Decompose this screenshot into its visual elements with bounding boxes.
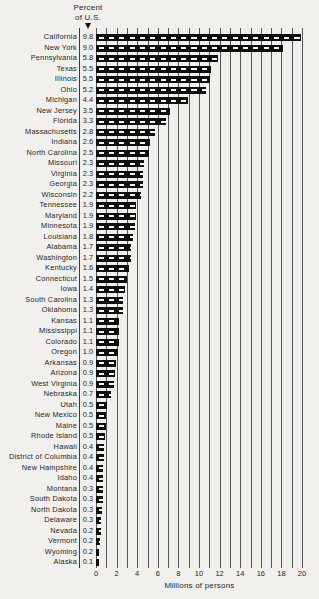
bar-row: Georgia2.3	[0, 179, 319, 190]
x-axis-tick-label: 0	[86, 569, 107, 578]
bar-row: Alabama1.7	[0, 242, 319, 253]
bar-row: Delaware0.3	[0, 515, 319, 526]
population-bar	[96, 192, 141, 199]
population-bar	[96, 402, 107, 409]
bar-gridline-dashes	[96, 520, 101, 522]
bar-gridline-dashes	[96, 299, 123, 301]
population-bar	[96, 265, 129, 272]
bar-gridline-dashes	[96, 58, 218, 60]
bar-gridline-dashes	[96, 352, 118, 354]
state-label: Idaho	[58, 473, 78, 484]
bar-gridline-dashes	[96, 320, 119, 322]
state-label: Connecticut	[36, 274, 77, 285]
bar-row: Arizona0.9	[0, 368, 319, 379]
population-bar	[96, 234, 133, 241]
percent-value: 0.9	[80, 379, 96, 390]
bar-row: California9.8	[0, 32, 319, 43]
bar-gridline-dashes	[96, 425, 106, 427]
percent-value: 0.5	[80, 431, 96, 442]
percent-value: 1.7	[80, 253, 96, 264]
population-bar	[96, 433, 105, 440]
population-bar	[96, 286, 125, 293]
state-label: Maryland	[45, 211, 77, 222]
population-bar	[96, 559, 99, 566]
x-axis-tick-label: 18	[271, 569, 292, 578]
state-label: Ohio	[61, 85, 77, 96]
x-axis-tick-label: 8	[168, 569, 189, 578]
bar-row: South Carolina1.3	[0, 295, 319, 306]
population-bar	[96, 87, 206, 94]
state-label: Virginia	[51, 169, 77, 180]
state-label: Maine	[56, 421, 77, 432]
state-label: Alaska	[54, 557, 77, 568]
bar-gridline-dashes	[96, 362, 116, 364]
bar-gridline-dashes	[96, 310, 123, 312]
percent-value: 4.4	[80, 95, 96, 106]
percent-value: 2.3	[80, 169, 96, 180]
bar-gridline-dashes	[96, 383, 114, 385]
bar-gridline-dashes	[96, 247, 131, 249]
state-label: Delaware	[44, 515, 77, 526]
bar-row: Florida3.3	[0, 116, 319, 127]
population-bar	[96, 76, 210, 83]
state-label: Louisiana	[44, 232, 77, 243]
bar-row: New York9.0	[0, 43, 319, 54]
bar-gridline-dashes	[96, 194, 141, 196]
state-label: New Jersey	[36, 106, 77, 117]
bar-row: Washington1.7	[0, 253, 319, 264]
bar-gridline-dashes	[96, 446, 104, 448]
bar-row: Maryland1.9	[0, 211, 319, 222]
bar-gridline-dashes	[96, 142, 150, 144]
population-bar	[96, 108, 170, 115]
bar-row: New Jersey3.5	[0, 106, 319, 117]
state-label: Wyoming	[45, 547, 77, 558]
population-bar	[96, 339, 119, 346]
bar-row: Missouri2.3	[0, 158, 319, 169]
x-axis-tick-label: 4	[127, 569, 148, 578]
population-bar	[96, 328, 119, 335]
percent-value: 0.4	[80, 463, 96, 474]
population-bar	[96, 297, 123, 304]
bar-gridline-dashes	[96, 257, 131, 259]
percent-value: 0.2	[80, 526, 96, 537]
percent-value: 0.3	[80, 494, 96, 505]
percent-value: 0.4	[80, 452, 96, 463]
percent-value: 2.5	[80, 148, 96, 159]
percent-value: 1.0	[80, 347, 96, 358]
percent-value: 9.0	[80, 43, 96, 54]
state-label: Missouri	[48, 158, 77, 169]
population-bar	[96, 454, 104, 461]
percent-value: 0.7	[80, 389, 96, 400]
bar-gridline-dashes	[96, 121, 166, 123]
x-axis-title: Millions of persons	[139, 581, 260, 591]
bar-row: Ohio5.2	[0, 85, 319, 96]
state-label: North Dakota	[31, 505, 77, 516]
state-label: Colorado	[45, 337, 77, 348]
bar-row: New Mexico0.5	[0, 410, 319, 421]
bar-row: Hawaii0.4	[0, 442, 319, 453]
state-label: Kentucky	[45, 263, 77, 274]
bar-row: Alaska0.1	[0, 557, 319, 568]
population-bar	[96, 528, 101, 535]
bar-gridline-dashes	[96, 331, 119, 333]
state-label: South Dakota	[30, 494, 77, 505]
percent-value: 5.5	[80, 74, 96, 85]
bar-row: Oregon1.0	[0, 347, 319, 358]
population-bar	[96, 150, 149, 157]
percent-value: 0.4	[80, 473, 96, 484]
bar-row: Pennsylvania5.8	[0, 53, 319, 64]
population-bar	[96, 465, 103, 472]
percent-value: 1.4	[80, 284, 96, 295]
bar-row: Idaho0.4	[0, 473, 319, 484]
state-label: Oklahoma	[42, 305, 77, 316]
population-bar	[96, 34, 301, 41]
state-label: New Mexico	[35, 410, 77, 421]
percent-value: 0.9	[80, 358, 96, 369]
population-bar	[96, 307, 123, 314]
population-bar	[96, 276, 127, 283]
bar-gridline-dashes	[96, 163, 144, 165]
bar-gridline-dashes	[96, 100, 188, 102]
percent-value: 2.2	[80, 190, 96, 201]
population-bar	[96, 66, 211, 73]
bar-row: Tennessee1.9	[0, 200, 319, 211]
